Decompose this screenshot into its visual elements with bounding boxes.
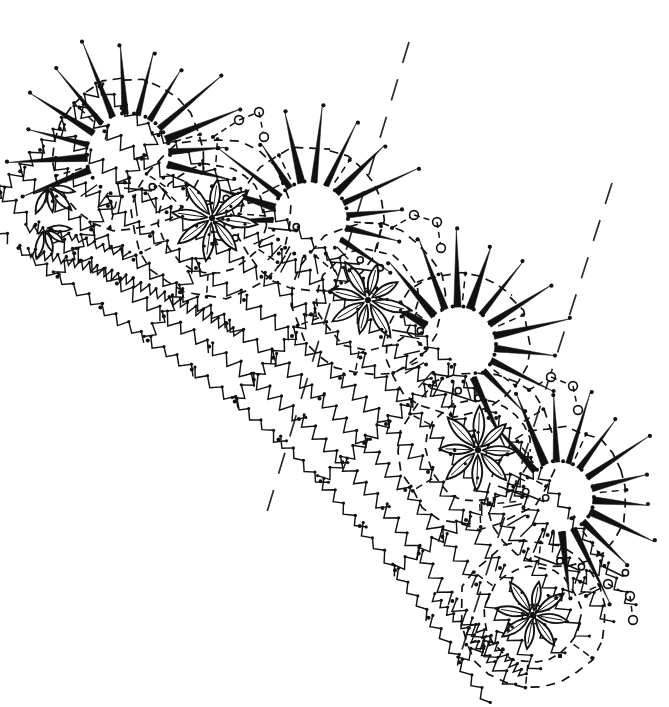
node-dot: [68, 176, 72, 180]
node-dot: [198, 163, 202, 167]
node-dot: [474, 623, 477, 626]
node-dot: [127, 176, 130, 179]
node-dot: [58, 127, 62, 131]
node-dot: [365, 481, 368, 484]
node-dot: [325, 437, 328, 440]
node-dot: [323, 392, 326, 395]
node-dot: [102, 129, 106, 133]
node-dot: [303, 255, 307, 259]
node-dot: [54, 156, 57, 159]
node-dot: [88, 261, 91, 264]
node-dot: [446, 606, 449, 609]
node-dot: [256, 373, 259, 376]
node-dot: [221, 218, 224, 221]
node-dot: [335, 449, 338, 452]
node-dot: [80, 259, 83, 262]
node-dot: [109, 199, 112, 202]
node-dot: [101, 158, 104, 161]
node-dot: [108, 226, 112, 230]
node-dot: [336, 330, 339, 333]
node-dot: [440, 535, 444, 539]
node-dot: [546, 533, 550, 537]
node-dot: [82, 103, 85, 106]
node-dot: [319, 350, 322, 353]
node-dot: [78, 106, 82, 110]
node-dot: [342, 502, 345, 505]
node-dot: [522, 549, 526, 553]
flower-center: [209, 215, 215, 221]
node-dot: [292, 404, 295, 407]
node-dot: [645, 473, 649, 477]
node-dot: [179, 297, 182, 300]
node-dot: [450, 590, 453, 593]
node-dot: [333, 279, 336, 282]
node-dot: [454, 545, 457, 548]
node-dot: [322, 477, 325, 480]
node-dot: [541, 407, 545, 411]
node-dot: [431, 466, 434, 469]
node-dot: [561, 588, 564, 591]
node-dot: [375, 286, 378, 289]
node-dot: [549, 284, 553, 288]
node-dot: [437, 272, 441, 276]
node-dot: [548, 479, 551, 482]
node-dot: [516, 439, 520, 443]
node-dot: [535, 560, 538, 563]
node-dot: [423, 383, 426, 386]
node-dot: [546, 522, 549, 525]
node-dot: [94, 82, 97, 85]
node-dot: [490, 634, 493, 637]
node-dot: [472, 570, 476, 574]
node-dot: [346, 461, 349, 464]
node-dot: [455, 519, 458, 522]
node-dot: [213, 238, 216, 241]
node-dot: [180, 205, 184, 209]
node-dot: [321, 278, 324, 281]
node-dot: [530, 654, 533, 657]
node-dot: [526, 476, 530, 480]
node-dot: [154, 121, 158, 125]
node-dot: [209, 304, 212, 307]
node-dot: [212, 272, 215, 275]
node-dot: [365, 525, 368, 528]
node-dot: [313, 471, 316, 474]
node-dot: [584, 432, 588, 436]
node-dot: [252, 378, 256, 382]
node-dot: [132, 276, 135, 279]
node-dot: [28, 91, 32, 95]
node-dot: [419, 499, 422, 502]
node-dot: [468, 626, 471, 629]
node-dot: [430, 536, 433, 539]
node-dot: [523, 539, 526, 542]
picot-circle: [574, 406, 583, 415]
node-dot: [97, 84, 101, 88]
node-dot: [563, 651, 566, 654]
node-dot: [379, 224, 383, 228]
node-dot: [339, 281, 343, 285]
node-dot: [458, 653, 461, 656]
node-dot: [26, 127, 30, 131]
node-dot: [312, 301, 315, 304]
node-dot: [484, 398, 487, 401]
node-dot: [447, 362, 450, 365]
node-dot: [366, 437, 369, 440]
flag-loop: [557, 558, 563, 564]
node-dot: [310, 383, 313, 386]
node-dot: [71, 173, 74, 176]
node-dot: [216, 137, 220, 141]
node-dot: [250, 372, 253, 375]
node-dot: [417, 552, 421, 556]
node-dot: [120, 195, 124, 199]
node-dot: [324, 182, 328, 186]
node-dot: [477, 622, 480, 625]
node-dot: [420, 353, 424, 357]
node-dot: [102, 267, 105, 270]
node-dot: [171, 293, 174, 296]
node-dot: [469, 647, 472, 650]
node-dot: [286, 218, 289, 221]
node-dot: [34, 223, 38, 227]
node-dot: [276, 238, 280, 242]
node-dot: [383, 144, 387, 148]
node-dot: [283, 246, 287, 250]
node-dot: [194, 257, 197, 260]
